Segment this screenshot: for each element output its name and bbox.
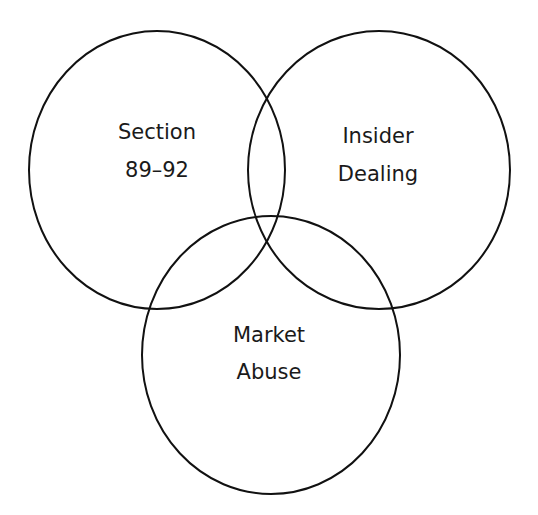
label-section-line2: 89–92 bbox=[125, 158, 189, 182]
label-section-line1: Section bbox=[118, 120, 196, 144]
label-insider-line2: Dealing bbox=[338, 162, 418, 186]
circle-market bbox=[142, 216, 400, 494]
venn-diagram: Section 89–92 Insider Dealing Market Abu… bbox=[0, 0, 538, 515]
set-section: Section 89–92 bbox=[29, 31, 285, 309]
label-market-line2: Abuse bbox=[237, 360, 302, 384]
set-market: Market Abuse bbox=[142, 216, 400, 494]
label-insider-line1: Insider bbox=[342, 124, 414, 148]
set-insider: Insider Dealing bbox=[248, 31, 510, 309]
label-market-line1: Market bbox=[233, 323, 305, 347]
